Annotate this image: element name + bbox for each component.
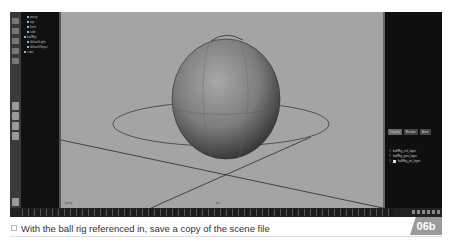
channel-box-layer-editor: Display Render Anim VballRig_ctrl_layer …	[383, 12, 442, 208]
tab-anim[interactable]: Anim	[420, 129, 431, 135]
time-slider[interactable]	[10, 208, 442, 217]
outliner-item[interactable]: defaultLight	[27, 40, 46, 43]
outliner-item[interactable]: side	[27, 30, 36, 33]
rotate-tool-icon[interactable]	[12, 48, 19, 54]
play-forward-button[interactable]	[427, 210, 430, 214]
outliner-item[interactable]: front	[27, 25, 36, 28]
mesh-icon	[24, 51, 26, 53]
toolbox	[10, 12, 21, 208]
reference-icon	[24, 36, 26, 38]
outliner-item[interactable]: persp	[27, 15, 38, 18]
timeline-ticks[interactable]	[22, 209, 394, 216]
outliner-item[interactable]: top	[27, 20, 34, 23]
play-back-button[interactable]	[422, 210, 425, 214]
visibility-toggle[interactable]: V	[389, 154, 391, 158]
camera-icon	[27, 26, 29, 28]
scene-view: persp fps	[61, 12, 383, 208]
outliner-item[interactable]: cube	[24, 50, 34, 53]
layer-color-swatch	[393, 160, 396, 163]
playback-controls	[412, 210, 440, 214]
layer-row[interactable]: VballRig_jnt_layer	[389, 159, 420, 163]
go-to-start-button[interactable]	[412, 210, 415, 214]
svg-text:persp: persp	[65, 201, 73, 205]
layout-outliner-icon[interactable]	[12, 132, 19, 140]
step-back-button[interactable]	[417, 210, 420, 214]
camera-icon	[27, 16, 29, 18]
go-to-end-button[interactable]	[437, 210, 440, 214]
layer-row[interactable]: VballRig_geo_layer	[389, 154, 417, 158]
select-tool-icon[interactable]	[12, 18, 19, 24]
layer-tabs: Display Render Anim	[388, 129, 431, 135]
caption: With the ball rig referenced in, save a …	[10, 220, 442, 237]
layout-two-icon[interactable]	[12, 122, 19, 130]
tab-render[interactable]: Render	[404, 129, 418, 135]
camera-icon	[27, 31, 29, 33]
step-forward-button[interactable]	[432, 210, 435, 214]
set-icon	[27, 41, 29, 43]
maya-screenshot: persp top front side ballRig defaultLigh…	[10, 12, 442, 217]
set-icon	[27, 46, 29, 48]
bullet-icon	[11, 225, 17, 231]
camera-icon	[27, 21, 29, 23]
move-tool-icon[interactable]	[12, 38, 19, 44]
outliner-item[interactable]: ballRig	[24, 35, 36, 38]
layout-extra-icon[interactable]	[12, 198, 19, 206]
lasso-tool-icon[interactable]	[12, 28, 19, 34]
perspective-viewport[interactable]: persp fps	[61, 12, 383, 208]
outliner-panel: persp top front side ballRig defaultLigh…	[21, 12, 61, 208]
tab-display[interactable]: Display	[388, 129, 402, 135]
visibility-toggle[interactable]: V	[389, 149, 391, 153]
outliner-item[interactable]: defaultObject	[27, 45, 48, 48]
scale-tool-icon[interactable]	[12, 58, 19, 64]
svg-text:fps: fps	[216, 201, 221, 205]
visibility-toggle[interactable]: V	[389, 159, 391, 163]
layer-row[interactable]: VballRig_ctrl_layer	[389, 149, 416, 153]
caption-text: With the ball rig referenced in, save a …	[21, 223, 270, 234]
layout-single-icon[interactable]	[12, 102, 19, 110]
layout-four-icon[interactable]	[12, 112, 19, 120]
